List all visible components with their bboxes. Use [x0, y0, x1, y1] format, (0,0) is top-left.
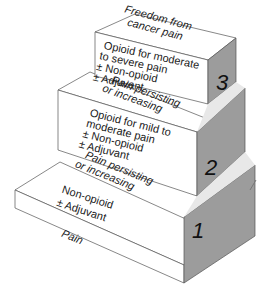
step-2-number: 2: [204, 155, 217, 180]
step-1-number: 1: [192, 218, 204, 243]
analgesic-ladder-diagram: 3 2 1 Freedom from cancer pain Opioid fo…: [0, 0, 272, 287]
step-3-number: 3: [216, 70, 229, 95]
